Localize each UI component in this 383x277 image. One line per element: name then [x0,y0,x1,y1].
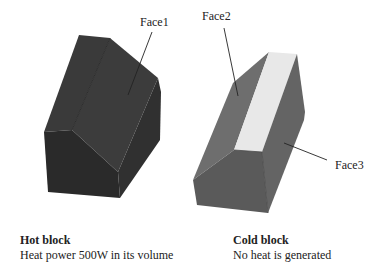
face2-label: Face2 [202,9,231,23]
hot-block-title: Hot block [20,233,173,248]
face3-label: Face3 [335,158,364,172]
cold-block-description: No heat is generated [233,248,331,263]
cold-block [193,52,305,213]
face1-label: Face1 [140,15,169,29]
hot-block [44,35,161,198]
hot-block-caption: Hot block Heat power 500W in its volume [20,233,173,263]
cold-block-caption: Cold block No heat is generated [233,233,331,263]
cold-block-title: Cold block [233,233,331,248]
hot-block-description: Heat power 500W in its volume [20,248,173,263]
face2-leader-line [224,28,238,96]
